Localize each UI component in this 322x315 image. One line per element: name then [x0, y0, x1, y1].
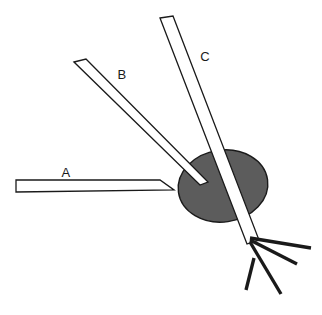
- fan-lines-group: [246, 238, 311, 294]
- line-diagram: A B C: [0, 0, 322, 315]
- fan-line-4: [246, 258, 254, 290]
- horizontal-arrow-a: [16, 180, 174, 192]
- figure-canvas: A B C: [0, 0, 322, 315]
- label-b: B: [118, 67, 127, 82]
- label-a: A: [62, 165, 71, 180]
- label-c: C: [200, 49, 210, 64]
- instrument-a-group: [16, 180, 174, 192]
